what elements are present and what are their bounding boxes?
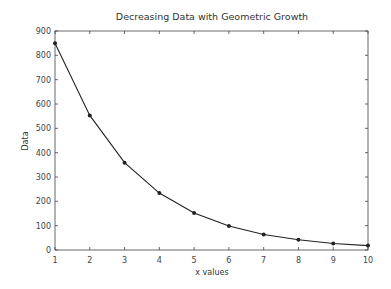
data-series-line (55, 43, 368, 245)
data-point (227, 224, 231, 228)
y-tick-label: 400 (36, 149, 51, 158)
data-point (331, 241, 335, 245)
plot-frame (55, 31, 368, 250)
data-points (53, 41, 370, 247)
x-tick-label: 10 (363, 256, 373, 265)
data-point (157, 191, 161, 195)
data-point (123, 161, 127, 165)
chart-title: Decreasing Data with Geometric Growth (116, 11, 308, 22)
y-tick-label: 900 (36, 27, 51, 36)
x-tick-label: 2 (87, 256, 92, 265)
y-tick-label: 300 (36, 173, 51, 182)
x-tick-label: 1 (52, 256, 57, 265)
y-axis-ticks: 0100200300400500600700800900 (36, 27, 368, 255)
x-tick-label: 9 (331, 256, 336, 265)
y-tick-label: 100 (36, 222, 51, 231)
data-point (262, 232, 266, 236)
data-point (88, 113, 92, 117)
x-tick-label: 8 (296, 256, 301, 265)
x-axis-ticks: 12345678910 (52, 31, 373, 265)
x-tick-label: 7 (261, 256, 266, 265)
x-tick-label: 4 (157, 256, 162, 265)
data-point (366, 244, 370, 248)
y-tick-label: 700 (36, 76, 51, 85)
data-point (296, 238, 300, 242)
y-axis-label: Data (21, 131, 30, 150)
x-tick-label: 3 (122, 256, 127, 265)
y-tick-label: 0 (46, 246, 51, 255)
x-tick-label: 6 (226, 256, 231, 265)
data-point (53, 41, 57, 45)
y-tick-label: 500 (36, 124, 51, 133)
x-axis-label: x values (195, 268, 228, 277)
data-point (192, 211, 196, 215)
plot-axes (55, 31, 368, 250)
x-tick-label: 5 (192, 256, 197, 265)
line-chart: Decreasing Data with Geometric Growth 01… (0, 0, 391, 289)
y-tick-label: 200 (36, 197, 51, 206)
y-tick-label: 800 (36, 51, 51, 60)
y-tick-label: 600 (36, 100, 51, 109)
